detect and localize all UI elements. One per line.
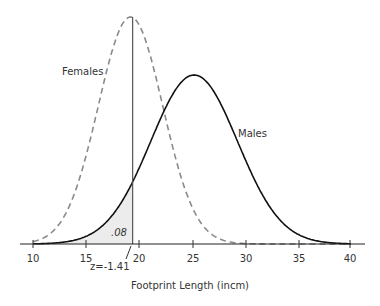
x-tick-label: 30 [240, 253, 253, 264]
x-tick-label: 10 [27, 253, 40, 264]
area-label: .08 [111, 227, 127, 238]
x-tick-label: 25 [187, 253, 200, 264]
x-axis-title: Footprint Length (incm) [131, 280, 249, 291]
males-label: Males [238, 128, 267, 139]
z-arrow [126, 246, 131, 259]
x-tick-label: 40 [344, 253, 357, 264]
x-tick-label: 35 [293, 253, 306, 264]
normal-distribution-chart: 10152025303540 Females Males .08 z=-1.41… [0, 0, 380, 306]
females-label: Females [62, 66, 103, 77]
females-curve [33, 17, 351, 244]
z-score-label: z=-1.41 [90, 261, 130, 272]
males-curve [33, 75, 351, 244]
x-tick-label: 20 [133, 253, 146, 264]
